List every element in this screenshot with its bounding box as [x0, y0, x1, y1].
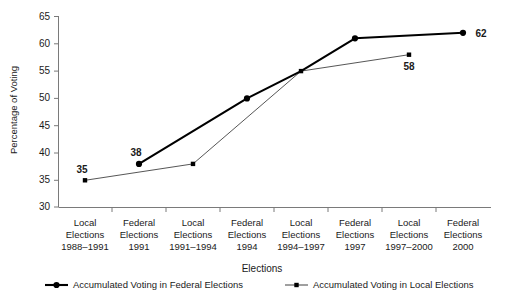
- x-tick-line3: 1991–1994: [169, 241, 217, 252]
- x-tick-line3: 1994–1997: [277, 241, 325, 252]
- y-tick-label: 65: [39, 11, 51, 22]
- data-label-35: 35: [76, 164, 88, 175]
- y-tick-label: 55: [39, 65, 51, 76]
- data-point-federal: [352, 35, 358, 41]
- data-point-local: [83, 178, 87, 182]
- data-point-federal: [460, 30, 466, 36]
- x-tick-line1: Local: [398, 217, 421, 228]
- y-tick-label: 30: [39, 201, 51, 212]
- series-local-line: [85, 55, 409, 181]
- data-labels: 35 38 58 62: [76, 28, 487, 175]
- x-tick-line2: Elections: [336, 229, 375, 240]
- data-point-federal: [136, 161, 142, 167]
- x-tick-line1: Local: [74, 217, 97, 228]
- x-tick-line3: 1994: [236, 241, 257, 252]
- chart-container: Percentage of Voting 65 60 55 50 45 40 3…: [0, 0, 506, 306]
- voting-line-chart: Percentage of Voting 65 60 55 50 45 40 3…: [0, 0, 506, 306]
- x-tick-line2: Elections: [120, 229, 159, 240]
- x-axis: [59, 208, 492, 213]
- x-tick-line2: Elections: [66, 229, 105, 240]
- x-tick-line1: Federal: [231, 217, 263, 228]
- legend-item-federal[interactable]: Accumulated Voting in Federal Elections: [45, 279, 243, 290]
- x-tick-group: [112, 208, 436, 213]
- x-tick-line3: 2000: [452, 241, 473, 252]
- legend-swatch-local-marker: [294, 283, 298, 287]
- data-label-62: 62: [475, 28, 487, 39]
- x-tick-line3: 1991: [128, 241, 149, 252]
- x-tick-label-0: Local Elections 1988–1991: [61, 217, 109, 252]
- x-tick-line3: 1997: [344, 241, 365, 252]
- x-tick-label-1: Federal Elections 1991: [120, 217, 159, 252]
- x-tick-label-6: Local Elections 1997–2000: [385, 217, 433, 252]
- x-tick-label-2: Local Elections 1991–1994: [169, 217, 217, 252]
- y-tick-label: 45: [39, 120, 51, 131]
- y-axis: 65 60 55 50 45 40 35 30: [39, 11, 59, 212]
- series-federal-elections: [136, 30, 466, 167]
- legend-label-local: Accumulated Voting in Local Elections: [313, 279, 474, 290]
- x-tick-labels: Local Elections 1988–1991 Federal Electi…: [61, 217, 482, 252]
- x-tick-line3: 1988–1991: [61, 241, 109, 252]
- data-point-local: [191, 162, 195, 166]
- x-axis-title: Elections: [242, 263, 283, 274]
- legend-label-federal: Accumulated Voting in Federal Elections: [73, 279, 243, 290]
- x-tick-line2: Elections: [444, 229, 483, 240]
- y-axis-title: Percentage of Voting: [8, 66, 19, 154]
- y-axis-title-text: Percentage of Voting: [8, 66, 19, 154]
- x-tick-label-4: Local Elections 1994–1997: [277, 217, 325, 252]
- x-tick-line1: Local: [290, 217, 313, 228]
- data-label-38: 38: [130, 147, 142, 158]
- x-tick-line1: Federal: [447, 217, 479, 228]
- y-tick-label: 35: [39, 174, 51, 185]
- x-tick-line2: Elections: [390, 229, 429, 240]
- series-local-elections: [83, 53, 411, 183]
- x-tick-label-5: Federal Elections 1997: [336, 217, 375, 252]
- x-tick-line1: Federal: [339, 217, 371, 228]
- y-tick-label: 40: [39, 147, 51, 158]
- series-federal-line: [139, 33, 463, 164]
- data-point-local: [407, 53, 411, 57]
- x-tick-label-3: Federal Elections 1994: [228, 217, 267, 252]
- x-tick-line2: Elections: [174, 229, 213, 240]
- y-tick-label: 50: [39, 92, 51, 103]
- x-tick-label-7: Federal Elections 2000: [444, 217, 483, 252]
- y-tick-label: 60: [39, 38, 51, 49]
- y-tick-group: [54, 17, 59, 208]
- legend-item-local[interactable]: Accumulated Voting in Local Elections: [285, 279, 474, 290]
- legend-swatch-federal-marker: [53, 282, 59, 288]
- data-label-58: 58: [403, 61, 415, 72]
- x-tick-line2: Elections: [228, 229, 267, 240]
- x-tick-line2: Elections: [282, 229, 321, 240]
- chart-legend: Accumulated Voting in Federal Elections …: [45, 279, 474, 290]
- x-tick-line1: Federal: [123, 217, 155, 228]
- x-tick-line1: Local: [182, 217, 205, 228]
- x-tick-line3: 1997–2000: [385, 241, 433, 252]
- data-point-federal: [244, 95, 250, 101]
